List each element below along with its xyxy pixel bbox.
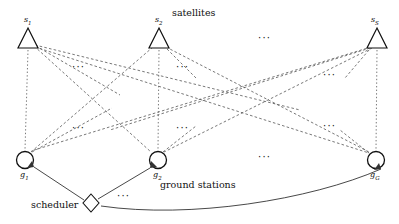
ground-station-label-g1: g1 bbox=[20, 171, 29, 181]
link-fan-sS-b bbox=[345, 50, 369, 78]
upper-right-inner-ellipsis: ··· bbox=[176, 62, 189, 72]
satellite-ground-station-diagram: satellites ground stations scheduler s1 … bbox=[0, 0, 399, 224]
satellite-label-s1: s1 bbox=[24, 16, 32, 26]
ground-station-label-gG: gG bbox=[370, 171, 380, 181]
scheduler-group-label: scheduler bbox=[31, 200, 78, 210]
scheduler-node[interactable] bbox=[83, 194, 99, 212]
lower-mid-ellipsis: ··· bbox=[176, 123, 189, 133]
lower-left-ellipsis: ··· bbox=[72, 123, 85, 133]
satellite-node-s1[interactable] bbox=[18, 28, 38, 48]
scheduler-arrowheads bbox=[27, 161, 381, 170]
satellite-label-sS-sub: S bbox=[375, 20, 379, 26]
link-s2-g1 bbox=[31, 47, 153, 152]
upper-left-ellipsis: ··· bbox=[72, 62, 85, 72]
upper-far-right-ellipsis: ··· bbox=[323, 70, 336, 80]
link-sS-gG-vertical bbox=[376, 50, 377, 150]
link-s1-mid-a bbox=[35, 45, 300, 110]
satellite-label-s1-sub: 1 bbox=[28, 20, 32, 26]
link-s1-g1-vertical bbox=[25, 50, 28, 150]
ground-station-label-g2-sub: 2 bbox=[158, 175, 162, 181]
ground-station-label-g2: g2 bbox=[153, 171, 162, 181]
link-fan-gG-a bbox=[340, 130, 369, 153]
link-s2-g2-vertical bbox=[158, 50, 159, 150]
scheduler-arrow-to-g1 bbox=[34, 167, 84, 200]
satellite-label-s2: s2 bbox=[155, 16, 163, 26]
link-sS-mid-a bbox=[110, 48, 370, 130]
satellites-group-label: satellites bbox=[172, 8, 215, 18]
ground-row-ellipsis: ··· bbox=[258, 152, 271, 162]
link-s2-gG bbox=[166, 47, 369, 152]
satellite-nodes bbox=[18, 28, 387, 48]
ground-station-nodes bbox=[17, 152, 385, 169]
link-s1-g2 bbox=[34, 46, 151, 152]
satellites-row-ellipsis: ··· bbox=[258, 33, 271, 43]
ground-station-label-gG-sub: G bbox=[375, 175, 379, 181]
scheduler-arrow-to-gG bbox=[101, 169, 381, 210]
ground-stations-group-label: ground stations bbox=[160, 180, 236, 190]
ground-station-node-gG[interactable] bbox=[368, 152, 385, 169]
satellite-label-s2-sub: 2 bbox=[159, 20, 163, 26]
link-sS-g2 bbox=[164, 48, 372, 152]
satellite-node-s2[interactable] bbox=[149, 28, 169, 48]
satellite-node-sS[interactable] bbox=[367, 28, 387, 48]
ground-station-label-g1-sub: 1 bbox=[25, 175, 29, 181]
satellite-label-sS: sS bbox=[371, 16, 379, 26]
scheduler-row-ellipsis: ··· bbox=[117, 191, 130, 201]
lower-far-right-ellipsis: ··· bbox=[323, 121, 336, 131]
diagram-canvas bbox=[0, 0, 399, 224]
